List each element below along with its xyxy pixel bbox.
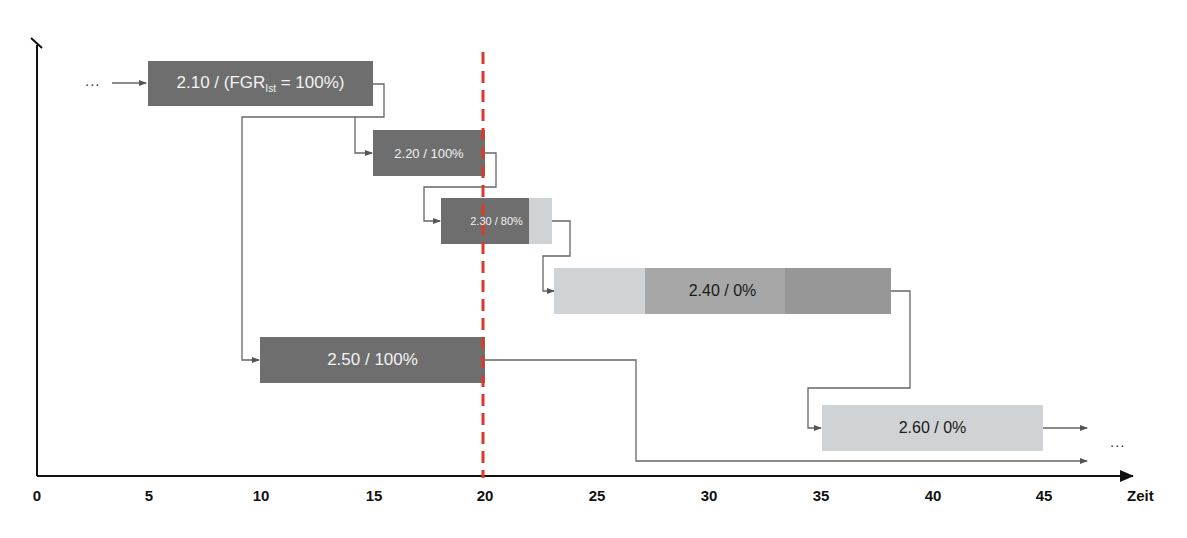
x-tick-30: 30 [701,487,718,504]
x-tick-35: 35 [813,487,830,504]
x-tick-20: 20 [477,487,494,504]
task-bar-2-40[interactable]: 2.40 / 0% [554,268,891,314]
progress-remaining-segment [529,198,552,244]
segment-dark [785,268,891,314]
task-label-2-30: 2.30 / 80% [470,215,523,227]
task-label-2-20: 2.20 / 100% [394,146,463,161]
x-axis-title: Zeit [1127,487,1154,504]
trail-ellipsis: ... [1110,433,1126,450]
task-label-2-50: 2.50 / 100% [327,350,418,370]
x-tick-15: 15 [366,487,383,504]
x-tick-40: 40 [925,487,942,504]
x-tick-0: 0 [33,487,41,504]
task-label-2-10: 2.10 / (FGRIst = 100%) [177,73,345,94]
task-bar-2-10[interactable]: 2.10 / (FGRIst = 100%) [148,61,373,106]
x-tick-25: 25 [589,487,606,504]
x-tick-10: 10 [253,487,270,504]
x-tick-5: 5 [145,487,153,504]
x-tick-45: 45 [1036,487,1053,504]
task-bar-2-30[interactable]: 2.30 / 80% [441,198,552,244]
task-bar-2-50[interactable]: 2.50 / 100% [260,337,485,383]
task-label-2-60: 2.60 / 0% [899,419,967,437]
lead-ellipsis: ... [85,72,101,89]
task-bar-2-60[interactable]: 2.60 / 0% [822,405,1043,451]
gantt-diagram: ... 2.10 / (FGRIst = 100%) 2.20 / 100% 2… [0,0,1187,538]
task-bar-2-20[interactable]: 2.20 / 100% [373,130,485,176]
task-label-2-40: 2.40 / 0% [689,282,757,300]
segment-light [554,268,645,314]
